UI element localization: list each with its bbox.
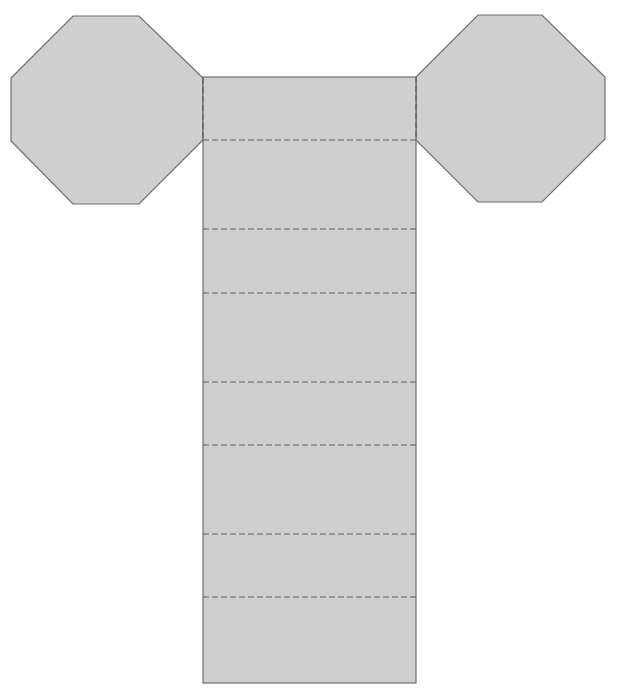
lateral-face-strip bbox=[203, 77, 416, 683]
octagonal-prism-net bbox=[0, 0, 617, 690]
right-base-octagon bbox=[416, 15, 605, 202]
left-base-octagon bbox=[11, 16, 203, 204]
